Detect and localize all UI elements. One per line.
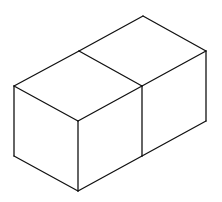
cube-edge [14, 51, 79, 86]
cube-edge [78, 156, 142, 191]
cube-edge [142, 51, 206, 86]
cube-edge [78, 86, 142, 121]
cube-edge [14, 156, 78, 191]
cube-edge [79, 51, 142, 86]
cube-edge [14, 86, 78, 121]
cube-edge [142, 121, 206, 156]
two-cubes-diagram [0, 0, 222, 202]
cube-edge [143, 16, 206, 51]
cube-edge [79, 16, 143, 51]
